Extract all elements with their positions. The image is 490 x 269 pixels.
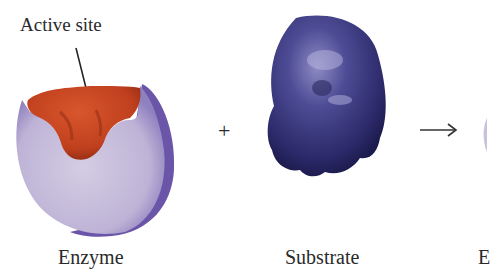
substrate-label: Substrate [285, 246, 359, 269]
product-label-partial: E [478, 246, 490, 269]
enzyme-label: Enzyme [58, 246, 124, 269]
